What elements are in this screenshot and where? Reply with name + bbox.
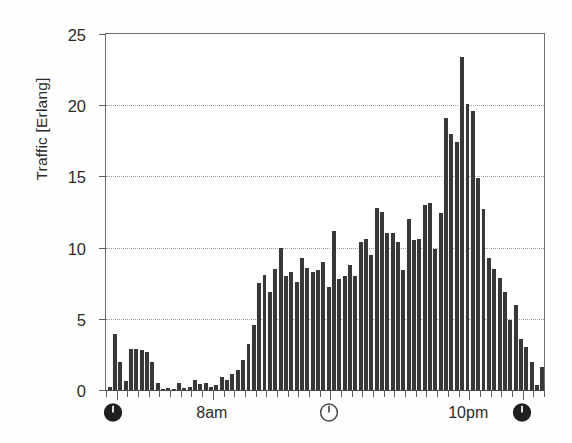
x-axis-tick xyxy=(394,390,395,397)
bar xyxy=(507,320,512,390)
y-axis-tick-label: 5 xyxy=(77,310,86,329)
bar xyxy=(128,349,133,390)
x-axis-tick xyxy=(277,390,278,397)
bar xyxy=(224,380,229,390)
bar xyxy=(176,383,181,390)
bar xyxy=(459,57,464,390)
bar xyxy=(310,272,315,390)
clock-icon-midnight-end xyxy=(511,402,532,423)
y-axis-tick-label: 0 xyxy=(77,382,86,401)
bar xyxy=(529,362,534,390)
bar xyxy=(155,383,160,390)
x-axis-tick xyxy=(416,390,417,397)
x-axis-tick xyxy=(341,390,342,397)
bar xyxy=(139,350,144,390)
x-axis-tick xyxy=(298,390,299,397)
bar xyxy=(144,352,149,390)
bar xyxy=(288,272,293,390)
x-axis-tick xyxy=(127,390,128,397)
bar xyxy=(272,269,277,390)
bar xyxy=(256,283,261,390)
bar xyxy=(336,279,341,390)
bar xyxy=(465,104,470,390)
bar xyxy=(390,233,395,390)
bar xyxy=(149,362,154,390)
bar xyxy=(107,387,112,390)
x-axis-tick xyxy=(512,390,513,397)
x-axis-tick xyxy=(426,390,427,397)
bar xyxy=(331,231,336,390)
bar xyxy=(422,205,427,390)
y-axis-tick: 10 xyxy=(99,248,106,249)
x-axis-tick xyxy=(181,390,182,397)
bar xyxy=(481,209,486,390)
bar xyxy=(315,270,320,390)
bar xyxy=(443,118,448,390)
x-axis-tick xyxy=(149,390,150,397)
x-axis-tick xyxy=(309,390,310,397)
x-axis-tick xyxy=(501,390,502,397)
x-axis-tick xyxy=(138,390,139,397)
bar xyxy=(342,276,347,390)
bar xyxy=(203,383,208,390)
bar xyxy=(299,258,304,390)
x-axis-tick xyxy=(170,390,171,397)
bar xyxy=(181,388,186,390)
bar xyxy=(502,292,507,390)
bar xyxy=(374,208,379,390)
bar xyxy=(352,276,357,390)
bar xyxy=(320,262,325,390)
bar xyxy=(192,380,197,390)
bar-series xyxy=(106,34,544,390)
x-axis-tick-label: 10pm xyxy=(448,404,488,422)
x-axis-tick xyxy=(437,390,438,397)
bar xyxy=(262,275,267,390)
bar xyxy=(117,362,122,390)
x-axis-tick-label: 8am xyxy=(196,404,227,422)
bar xyxy=(235,370,240,390)
bar xyxy=(229,374,234,390)
bar xyxy=(213,385,218,390)
bar xyxy=(523,347,528,390)
x-axis-tick xyxy=(245,390,246,397)
bar xyxy=(278,248,283,390)
y-axis-tick-label: 20 xyxy=(68,97,86,116)
y-axis-title: Traffic [Erlang] xyxy=(33,29,51,229)
bar xyxy=(219,377,224,390)
x-axis-tick xyxy=(352,390,353,397)
bar xyxy=(358,242,363,390)
bar xyxy=(416,239,421,390)
bar xyxy=(470,111,475,390)
bar xyxy=(160,389,165,390)
bar xyxy=(267,292,272,390)
y-axis-tick: 0 xyxy=(99,390,106,391)
bar xyxy=(497,278,502,390)
bar xyxy=(171,389,176,390)
clock-icon-midnight-start xyxy=(103,402,124,423)
x-axis-tick xyxy=(384,390,385,397)
x-axis-tick xyxy=(266,390,267,397)
clock-icon-noon xyxy=(319,402,340,423)
y-axis-tick-label: 25 xyxy=(68,26,86,45)
bar xyxy=(438,213,443,390)
x-axis-tick xyxy=(234,390,235,397)
bar xyxy=(294,282,299,390)
bar xyxy=(283,276,288,390)
x-axis-tick xyxy=(362,390,363,397)
traffic-chart-figure: Traffic [Erlang] 0510152025 8am10pm xyxy=(0,0,572,443)
bar xyxy=(133,349,138,390)
x-axis-tick xyxy=(405,390,406,397)
x-axis-tick xyxy=(459,390,460,397)
bar xyxy=(406,219,411,390)
bar xyxy=(326,287,331,390)
bar xyxy=(363,239,368,390)
bar xyxy=(240,360,245,390)
bar xyxy=(304,268,309,390)
x-axis-tick xyxy=(448,390,449,397)
y-axis-tick: 5 xyxy=(99,319,106,320)
x-axis-tick xyxy=(106,390,107,397)
bar xyxy=(486,258,491,390)
x-axis-tick xyxy=(533,390,534,397)
bar xyxy=(518,339,523,390)
bar xyxy=(400,270,405,390)
